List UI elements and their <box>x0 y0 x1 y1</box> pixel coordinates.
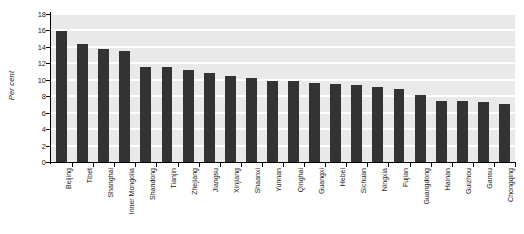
x-axis-tick-label: Sichuan <box>360 168 367 193</box>
x-axis-tick-mark <box>410 163 411 167</box>
bar <box>98 49 109 162</box>
x-axis-tick-mark <box>135 163 136 167</box>
x-axis-tick-label: Shandong <box>149 168 156 200</box>
y-axis-tick-mark <box>46 30 50 31</box>
bar <box>457 101 468 162</box>
bar <box>436 101 447 162</box>
bar <box>499 104 510 162</box>
x-axis-tick-mark <box>178 163 179 167</box>
x-axis-tick-mark <box>431 163 432 167</box>
x-axis-tick-labels: BeijingTibetShanghaiInner MongoliaShando… <box>51 168 515 234</box>
x-axis-tick-label: Tibet <box>86 168 93 183</box>
x-axis-tick-mark <box>515 163 516 167</box>
y-axis-tick-mark <box>46 14 50 15</box>
bar-series <box>51 14 515 162</box>
bar <box>394 89 405 162</box>
x-axis-tick-mark <box>199 163 200 167</box>
x-axis-tick-mark <box>325 163 326 167</box>
bar <box>140 67 151 162</box>
bar <box>330 84 341 162</box>
y-axis-tick-label: 10 <box>38 75 46 84</box>
x-axis-tick-label: Zhejiang <box>191 168 198 195</box>
x-axis-tick-label: Beijing <box>65 168 72 189</box>
y-axis-tick-label: 12 <box>38 59 46 68</box>
x-axis-tick-mark <box>93 163 94 167</box>
x-axis-tick-label: Hebei <box>339 168 346 186</box>
bar <box>415 95 426 162</box>
bar <box>351 85 362 162</box>
bar <box>309 83 320 162</box>
x-axis-tick-mark <box>262 163 263 167</box>
y-axis-tick-mark <box>46 96 50 97</box>
bar <box>225 76 236 162</box>
x-axis-tick-mark <box>367 163 368 167</box>
y-axis-tick-label: 18 <box>38 10 46 19</box>
bar <box>246 78 257 162</box>
y-axis-tick-mark <box>46 113 50 114</box>
bar <box>162 67 173 162</box>
y-axis-tick-label: 16 <box>38 26 46 35</box>
x-axis-tick-mark <box>220 163 221 167</box>
x-axis-tick-label: Qinghai <box>297 168 304 192</box>
bar-chart: Per cent 024681012141618 BeijingTibetSha… <box>0 0 524 234</box>
plot-area <box>51 14 515 162</box>
x-axis-tick-label: Yunnan <box>275 168 282 192</box>
x-axis-tick-label: Inner Mongolia <box>128 168 135 214</box>
y-axis-tick-label: 14 <box>38 42 46 51</box>
bar <box>204 73 215 162</box>
x-axis-tick-label: Guizhou <box>465 168 472 194</box>
x-axis-tick-label: Ningxia <box>381 168 388 191</box>
bar <box>56 31 67 162</box>
y-axis-tick-mark <box>46 146 50 147</box>
x-axis-tick-label: Guangxi <box>318 168 325 194</box>
y-axis-tick-mark <box>46 162 50 163</box>
y-axis-tick-labels: 024681012141618 <box>22 14 46 162</box>
y-axis-title-text: Per cent <box>8 70 17 100</box>
x-axis-tick-mark <box>283 163 284 167</box>
x-axis-tick-mark <box>114 163 115 167</box>
bar <box>267 81 278 162</box>
x-axis-tick-mark <box>241 163 242 167</box>
y-axis-tick-mark <box>46 63 50 64</box>
x-axis-tick-mark <box>452 163 453 167</box>
y-axis-title: Per cent <box>2 0 22 170</box>
x-axis-tick-mark <box>304 163 305 167</box>
bar <box>372 87 383 162</box>
x-axis-tick-mark <box>494 163 495 167</box>
bar <box>119 51 130 162</box>
x-axis-tick-label: Gansu <box>486 168 493 189</box>
y-axis-tick-mark <box>46 47 50 48</box>
x-axis-tick-label: Jiangsu <box>212 168 219 192</box>
x-axis-tick-mark <box>473 163 474 167</box>
bar <box>77 44 88 162</box>
x-axis-tick-label: Xinjiang <box>233 168 240 193</box>
x-axis-tick-label: Fujian <box>402 168 409 187</box>
x-axis-tick-mark <box>156 163 157 167</box>
x-axis-tick-label: Hainan <box>444 168 451 190</box>
x-axis-tick-mark <box>72 163 73 167</box>
bar <box>183 70 194 162</box>
bar <box>478 102 489 162</box>
x-axis-tick-label: Guangdong <box>423 168 430 205</box>
x-axis-tick-label: Tianjin <box>170 168 177 188</box>
y-axis-tick-mark <box>46 80 50 81</box>
x-axis-tick-mark <box>388 163 389 167</box>
x-axis-tick-label: Shanghai <box>107 168 114 198</box>
x-axis-tick-label: Shaanxi <box>254 168 261 193</box>
x-axis-tick-label: Chongqing <box>507 168 514 202</box>
y-axis-tick-mark <box>46 129 50 130</box>
x-axis-tick-mark <box>346 163 347 167</box>
bar <box>288 81 299 162</box>
